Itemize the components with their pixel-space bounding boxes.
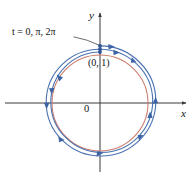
origin-label: 0 [84, 104, 89, 115]
figure-container: t = 0t = 0, π, 2π y x 0 (0, 1) [0, 0, 195, 180]
direction-arrow-top-inner [113, 50, 120, 56]
parameter-label-text: t = 0, π, 2π [12, 26, 56, 37]
parameter-label-leader-line [74, 37, 100, 45]
point-coordinate-label: (0, 1) [88, 58, 110, 68]
direction-arrow-right-outer [153, 97, 159, 104]
parameter-label-leader-group [74, 37, 100, 45]
parameter-values-label: t = 0t = 0, π, 2π [12, 27, 56, 37]
y-axis-label: y [89, 10, 94, 21]
x-axis-label: x [181, 108, 186, 119]
direction-arrow-left-outer [44, 103, 50, 110]
spiral-marker-dots-group [98, 44, 102, 54]
direction-arrow-top-outer [108, 44, 115, 50]
marker-dot-t-0 [98, 50, 102, 54]
